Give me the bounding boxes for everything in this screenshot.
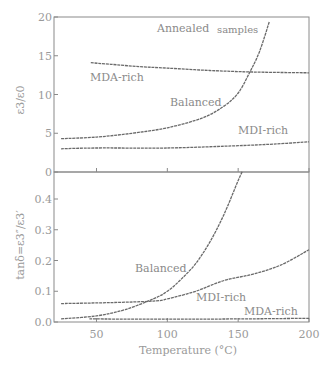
- curve-mdi-rich: [61, 250, 309, 304]
- top-title-samples: samples: [217, 24, 258, 35]
- y-tick-label: 20: [38, 11, 52, 24]
- x-axis-label: Temperature (°C): [139, 344, 237, 357]
- y-tick-label: 5: [45, 127, 52, 140]
- bottom-label-balanced: Balanced: [135, 262, 187, 275]
- x-tick-label: 150: [228, 328, 249, 341]
- y-tick-label: 0.1: [35, 285, 53, 298]
- top-plot-frame: [54, 17, 309, 172]
- bottom-curves: [61, 171, 309, 319]
- top-title-annealed: Annealed: [156, 22, 209, 35]
- y-tick-label: 15: [38, 50, 52, 63]
- top-xticks: [97, 168, 310, 172]
- top-label-mdi-rich: MDI-rich: [238, 124, 288, 137]
- y-tick-label: 0.2: [35, 255, 53, 268]
- y-tick-label: 10: [38, 89, 52, 102]
- bottom-label-mdi-rich: MDI-rich: [196, 291, 246, 304]
- y-tick-label: 0.3: [35, 224, 53, 237]
- curve-mdi-rich: [61, 142, 309, 149]
- x-tick-label: 100: [157, 328, 178, 341]
- bottom-plot-frame: [54, 172, 309, 322]
- bottom-y-axis-label: tanδ=ε3″/ε3′: [14, 210, 27, 280]
- curve-mda-rich: [89, 318, 309, 319]
- bottom-xticks: 50100150200: [90, 318, 320, 341]
- chart-figure: 05101520 Annealed samples MDA-rich Balan…: [0, 0, 328, 369]
- y-tick-label: 0.0: [35, 316, 53, 329]
- top-label-mda-rich: MDA-rich: [90, 71, 144, 84]
- bottom-label-mda-rich: MDA-rich: [244, 305, 298, 318]
- x-tick-label: 200: [299, 328, 320, 341]
- y-tick-label: 0: [45, 166, 52, 179]
- top-yticks: 05101520: [38, 11, 58, 179]
- x-tick-label: 50: [90, 328, 104, 341]
- top-label-balanced: Balanced: [170, 96, 222, 109]
- y-tick-label: 0.4: [35, 193, 53, 206]
- top-y-axis-label: ε3/ε0: [14, 85, 27, 114]
